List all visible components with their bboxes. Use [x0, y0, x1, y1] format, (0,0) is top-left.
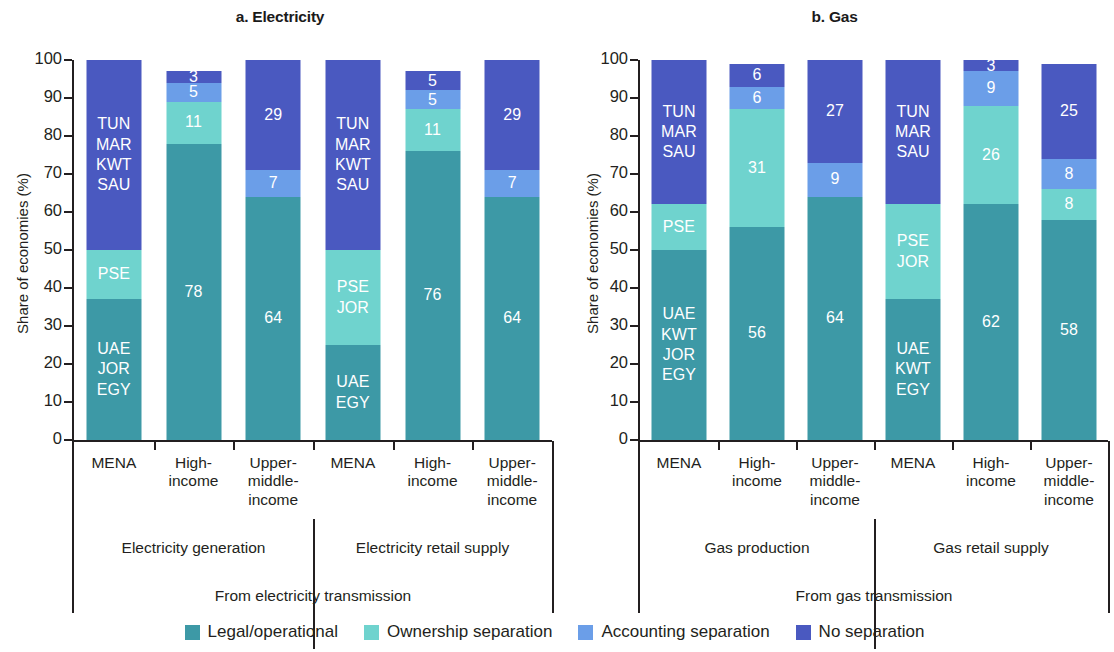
bar-segment-label: 7 — [508, 173, 517, 193]
bar-segment[interactable]: UAE JOR EGY — [86, 299, 141, 440]
y-tick-label: 80 — [44, 125, 62, 144]
bar-segment[interactable]: 62 — [964, 204, 1019, 440]
stacked-bar[interactable]: 64729 — [246, 60, 301, 440]
panel-a-bars: UAE JOR EGYPSETUN MAR KWT SAU78115364729… — [74, 60, 552, 440]
bar-segment[interactable]: 7 — [246, 170, 301, 197]
bar-segment[interactable]: 26 — [964, 106, 1019, 205]
bar-segment[interactable]: 8 — [1042, 189, 1097, 219]
bar-segment[interactable]: PSE JOR — [886, 204, 941, 299]
bar-segment[interactable]: 11 — [166, 102, 221, 144]
y-tick-mark — [64, 211, 72, 213]
bar-segment[interactable]: TUN MAR SAU — [652, 60, 707, 204]
y-tick-mark — [64, 287, 72, 289]
bar-segment[interactable]: 56 — [730, 227, 785, 440]
y-tick-label: 30 — [610, 315, 628, 334]
bar-segment[interactable]: 8 — [1042, 159, 1097, 189]
bar-segment[interactable]: 31 — [730, 109, 785, 227]
stacked-bar[interactable]: UAE KWT EGYPSE JORTUN MAR SAU — [886, 60, 941, 440]
stacked-bar[interactable]: 588825 — [1042, 64, 1097, 440]
category-label: High- income — [393, 441, 473, 519]
legend-label: Legal/operational — [208, 622, 338, 642]
stacked-bar[interactable]: 64927 — [808, 60, 863, 440]
bar-segment[interactable]: UAE KWT JOR EGY — [652, 250, 707, 440]
panel-b-category-row: MENAHigh- incomeUpper- middle- incomeMEN… — [640, 441, 1108, 519]
panel-b-category-axis: MENAHigh- incomeUpper- middle- incomeMEN… — [638, 441, 1110, 613]
bar-segment[interactable]: UAE KWT EGY — [886, 299, 941, 440]
category-label: MENA — [74, 441, 154, 519]
category-tick — [313, 441, 315, 450]
bar-segment[interactable]: 58 — [1042, 220, 1097, 440]
stacked-bar[interactable]: UAE KWT JOR EGYPSETUN MAR SAU — [652, 60, 707, 440]
bar-segment[interactable]: PSE — [86, 250, 141, 299]
category-tick — [952, 441, 954, 450]
category-tick — [718, 441, 720, 450]
bar-segment[interactable]: 7 — [485, 170, 540, 197]
y-tick-label: 100 — [34, 49, 62, 68]
bar-segment[interactable]: 6 — [730, 64, 785, 87]
stacked-bar[interactable]: 563166 — [730, 64, 785, 440]
y-tick-mark — [64, 135, 72, 137]
bar-segment-label: 58 — [1060, 320, 1078, 340]
bar-segment[interactable]: 9 — [964, 71, 1019, 105]
panel-a-title: a. Electricity — [0, 8, 630, 26]
bar-segment[interactable]: 9 — [808, 163, 863, 197]
bar-segment-label: 76 — [424, 285, 442, 305]
panel-b-y-axis-label: Share of economies (%) — [584, 114, 601, 394]
bar-segment[interactable]: 64 — [485, 197, 540, 440]
bar-segment[interactable]: 6 — [730, 87, 785, 110]
bar-segment-label: 25 — [1060, 101, 1078, 121]
bar-segment[interactable]: PSE JOR — [325, 250, 380, 345]
bar-segment[interactable]: TUN MAR SAU — [886, 60, 941, 204]
stacked-bar[interactable]: 64729 — [485, 60, 540, 440]
bar-segment-label: 5 — [428, 71, 437, 91]
bar-segment[interactable]: 25 — [1042, 64, 1097, 159]
bar-segment-label: 6 — [753, 88, 762, 108]
y-tick-mark — [64, 249, 72, 251]
y-tick-mark — [64, 59, 72, 61]
bar-segment[interactable]: 76 — [405, 151, 460, 440]
bar-segment-label: PSE JOR — [897, 231, 929, 272]
bar-segment[interactable]: UAE EGY — [325, 345, 380, 440]
bar-segment[interactable]: 64 — [246, 197, 301, 440]
bar-segment-label: TUN MAR KWT SAU — [335, 114, 371, 196]
bar-segment-label: PSE — [98, 264, 130, 284]
bar-segment[interactable]: TUN MAR KWT SAU — [86, 60, 141, 250]
bar-segment[interactable]: 3 — [964, 60, 1019, 71]
category-tick — [393, 441, 395, 450]
bar-slot: 64927 — [796, 60, 874, 440]
bar-segment-label: 27 — [826, 101, 844, 121]
bar-segment-label: UAE JOR EGY — [97, 339, 131, 400]
stacked-bar[interactable]: UAE JOR EGYPSETUN MAR KWT SAU — [86, 60, 141, 440]
bar-segment[interactable]: 27 — [808, 60, 863, 163]
stacked-bar[interactable]: 622693 — [964, 60, 1019, 440]
bar-segment[interactable]: 5 — [405, 90, 460, 109]
legend-item[interactable]: Accounting separation — [578, 622, 769, 642]
group-label: Electricity generation — [74, 519, 313, 571]
bar-segment[interactable]: PSE — [652, 204, 707, 250]
category-label: MENA — [874, 441, 952, 519]
bar-segment[interactable]: TUN MAR KWT SAU — [325, 60, 380, 250]
bar-segment[interactable]: 64 — [808, 197, 863, 440]
chart-legend: Legal/operationalOwnership separationAcc… — [0, 622, 1109, 642]
y-tick-label: 20 — [44, 353, 62, 372]
stacked-bar[interactable]: UAE EGYPSE JORTUN MAR KWT SAU — [325, 60, 380, 440]
bar-segment[interactable]: 29 — [485, 60, 540, 170]
y-tick-mark — [64, 97, 72, 99]
bar-slot: 563166 — [718, 60, 796, 440]
stacked-bar[interactable]: 761155 — [405, 71, 460, 440]
bar-segment-label: 3 — [189, 67, 198, 87]
bar-segment-label: 64 — [264, 308, 282, 328]
bar-segment[interactable]: 11 — [405, 109, 460, 151]
legend-item[interactable]: Ownership separation — [364, 622, 552, 642]
bar-segment[interactable]: 78 — [166, 144, 221, 440]
bar-segment[interactable]: 3 — [166, 71, 221, 82]
legend-item[interactable]: Legal/operational — [185, 622, 338, 642]
y-tick-label: 100 — [600, 49, 628, 68]
bar-segment[interactable]: 5 — [405, 71, 460, 90]
bar-slot: 588825 — [1030, 60, 1108, 440]
legend-item[interactable]: No separation — [796, 622, 925, 642]
bar-segment[interactable]: 29 — [246, 60, 301, 170]
bar-segment-label: TUN MAR KWT SAU — [96, 114, 132, 196]
stacked-bar[interactable]: 781153 — [166, 71, 221, 440]
bar-segment-label: 11 — [185, 112, 202, 132]
